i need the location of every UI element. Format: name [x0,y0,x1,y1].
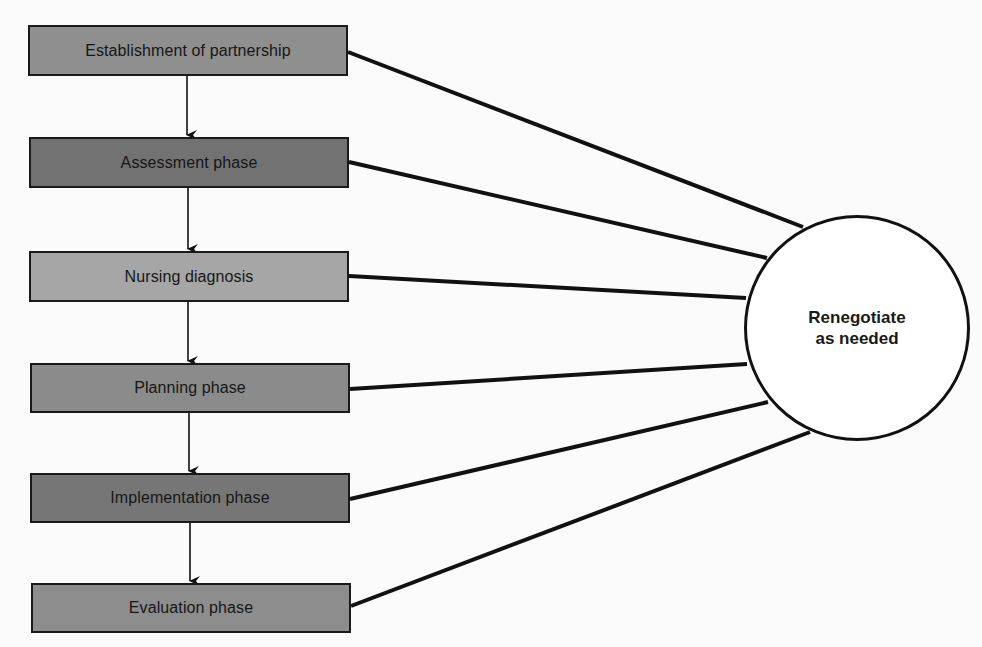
renegotiate-circle: Renegotiate as needed [744,215,970,441]
connector-line [349,276,746,298]
phase-label: Implementation phase [110,489,269,507]
phase-box-implementation: Implementation phase [30,473,350,523]
phase-label: Evaluation phase [129,599,253,617]
connector-line [351,432,810,606]
connector-lines [348,52,810,606]
phase-box-evaluation: Evaluation phase [31,583,351,633]
phase-label: Nursing diagnosis [125,268,254,286]
nursing-process-diagram: Establishment of partnership Assessment … [0,0,982,647]
hub-label-line1: Renegotiate [808,307,905,328]
connector-line [349,162,767,258]
phase-label: Planning phase [134,379,246,397]
connector-line [350,402,768,499]
phase-box-assessment: Assessment phase [29,137,349,188]
connector-line [348,52,803,227]
phase-label: Assessment phase [121,154,258,172]
connector-line [350,364,747,389]
hub-label-line2: as needed [815,328,898,349]
phase-box-planning: Planning phase [30,363,350,413]
phase-box-establishment-of-partnership: Establishment of partnership [28,25,348,76]
phase-box-nursing-diagnosis: Nursing diagnosis [29,251,349,302]
phase-label: Establishment of partnership [85,42,291,60]
